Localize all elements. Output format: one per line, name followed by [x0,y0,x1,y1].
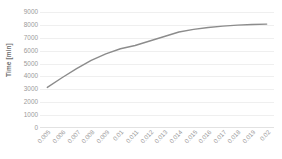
x-tick-label: 0.014 [169,129,184,145]
x-tick-label: 0.005 [37,129,52,145]
series-polyline [47,24,266,87]
line-chart: Time [min] 01000200030004000500060007000… [0,0,282,159]
x-tick-label: 0.02 [259,129,272,142]
x-tick-label: 0.018 [227,129,242,145]
y-tick-label: 1000 [14,112,38,118]
x-tick-label: 0.019 [242,129,257,145]
y-tick-label: 7000 [14,35,38,41]
x-tick-label: 0.013 [154,129,169,145]
y-tick-label: 3000 [14,86,38,92]
x-axis-tick-labels: 0.0050.0060.0070.0080.0090.010.0110.0120… [40,129,274,159]
series-line [40,12,274,128]
x-tick-label: 0.012 [139,129,154,145]
plot-area [40,12,274,128]
y-tick-label: 4000 [14,73,38,79]
y-axis-tick-labels: 0100020003000400050006000700080009000 [14,12,38,128]
x-tick-label: 0.015 [183,129,198,145]
y-tick-label: 6000 [14,47,38,53]
x-tick-label: 0.017 [212,129,227,145]
x-tick-label: 0.008 [81,129,96,145]
y-tick-label: 9000 [14,9,38,15]
x-tick-label: 0.009 [95,129,110,145]
y-tick-label: 0 [14,125,38,131]
x-tick-label: 0.01 [112,129,125,142]
x-tick-label: 0.011 [125,129,140,144]
y-tick-label: 5000 [14,60,38,66]
x-tick-label: 0.016 [198,129,213,145]
y-tick-label: 2000 [14,99,38,105]
x-tick-label: 0.007 [66,129,81,145]
y-tick-label: 8000 [14,22,38,28]
x-tick-label: 0.006 [52,129,67,145]
